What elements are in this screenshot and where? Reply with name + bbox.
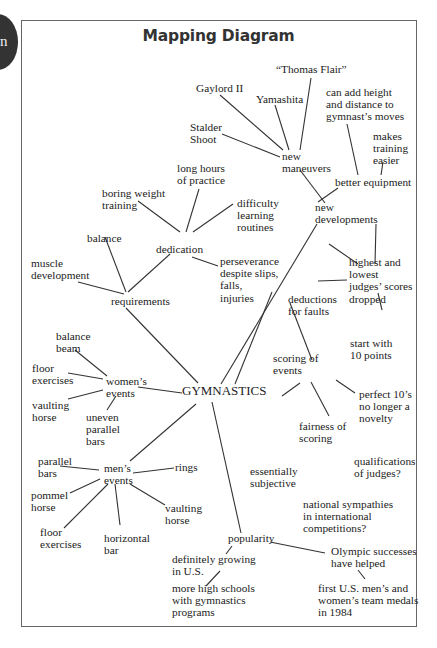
line-requirements-center (126, 308, 198, 383)
node-horizontal-bar: horizontal bar (104, 532, 150, 556)
line-vaulting-w (68, 390, 103, 399)
node-dedication: dedication (156, 243, 203, 255)
node-more-high-schools: more high schools with gymnastics progra… (172, 582, 255, 619)
line-qualifications (336, 380, 355, 393)
line-thomas-flair (300, 78, 311, 150)
node-perseverance: perseverance despite slips, falls, injur… (220, 255, 279, 304)
node-start-with: start with 10 points (350, 337, 392, 361)
node-muscle-development: muscle development (31, 257, 89, 281)
node-new-developments: new developments (315, 201, 378, 225)
line-national (311, 382, 329, 416)
node-vaulting-horse-women: vaulting horse (32, 399, 69, 423)
line-yamashita (275, 105, 289, 150)
line-can-add-height (347, 124, 358, 175)
line-center-popularity (212, 402, 241, 533)
line-vaulting-m (130, 484, 165, 505)
node-floor-exercises-women: floor exercises (32, 362, 73, 386)
node-boring-weight: boring weight training (102, 187, 165, 211)
node-first-us-medals: first U.S. men’s and women’s team medals… (318, 582, 418, 619)
node-gaylord: Gaylord II (196, 82, 243, 94)
line-perseverance (192, 257, 218, 266)
node-national-sympathies: national sympathies in international com… (303, 498, 393, 535)
node-parallel-bars: parallel bars (38, 455, 72, 479)
node-definitely-growing: definitely growing in U.S. (172, 553, 256, 577)
node-mens-events: men’s events (104, 462, 133, 486)
node-better-equipment: better equipment (335, 176, 411, 188)
node-gymnastics-center: GYMNASTICS (182, 385, 267, 397)
line-first-us (358, 570, 365, 579)
line-long-hours (186, 189, 199, 232)
line-equipment-developments (318, 188, 338, 202)
node-difficulty: difficulty learning routines (237, 197, 279, 234)
line-mens-center (130, 404, 196, 461)
node-perfect-10: perfect 10’s no longer a novelty (359, 388, 412, 425)
node-thomas-flair: “Thomas Flair” (276, 63, 347, 75)
line-muscle (78, 282, 124, 294)
node-qualifications: qualifications of judges? (354, 455, 416, 479)
node-new-maneuvers: new maneuvers (282, 150, 331, 174)
node-can-add-height: can add height and distance to gymnast’s… (326, 86, 404, 123)
line-maneuvers-developments (300, 170, 325, 203)
node-olympic-successes: Olympic successes have helped (331, 545, 417, 569)
node-requirements: requirements (111, 295, 170, 307)
node-stalder-shoot: Stalder Shoot (190, 121, 222, 145)
line-rings (133, 468, 174, 473)
node-balance-beam: balance beam (56, 330, 91, 354)
line-essentially (282, 383, 300, 396)
line-start-scoring (318, 280, 347, 281)
node-long-hours: long hours of practice (177, 162, 225, 186)
node-floor-exercises-men: floor exercises (40, 526, 81, 550)
node-vaulting-horse-men: vaulting horse (165, 502, 202, 526)
node-makes-training: makes training easier (373, 130, 408, 167)
line-stalder (222, 134, 280, 157)
line-balance (105, 237, 126, 292)
line-scoring-center (235, 292, 272, 384)
line-pommel (70, 479, 100, 493)
node-essentially-subjective: essentially subjective (250, 465, 298, 489)
node-fairness-of-scoring: fairness of scoring (299, 420, 346, 444)
node-highest-lowest: highest and lowest judges’ scores droppe… (349, 256, 412, 305)
line-floor-m (64, 484, 108, 528)
node-deductions: deductions for faults (288, 293, 337, 317)
line-dedication-requirements (128, 254, 170, 292)
line-horizontal (115, 484, 120, 525)
node-womens-events: women’s events (106, 375, 147, 399)
node-rings: rings (175, 461, 198, 473)
node-scoring-of-events: scoring of events (273, 352, 319, 376)
node-pommel-horse: pommel horse (31, 489, 68, 513)
line-olympic (270, 542, 325, 553)
node-yamashita: Yamashita (256, 93, 303, 105)
node-popularity: popularity (228, 532, 274, 544)
node-uneven-parallel-bars: uneven parallel bars (86, 411, 120, 448)
line-difficulty (193, 204, 233, 232)
node-balance: balance (87, 232, 122, 244)
